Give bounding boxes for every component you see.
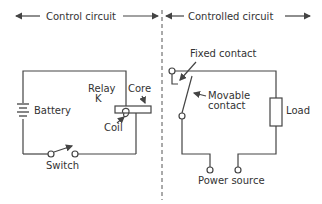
movable-contact-pointer-arrow — [194, 93, 206, 96]
movable-contact-label-2: contact — [208, 100, 246, 111]
battery-label: Battery — [34, 105, 71, 116]
power-source-label: Power source — [198, 175, 265, 186]
switch-icon[interactable] — [48, 146, 78, 157]
core-label: Core — [128, 83, 151, 94]
relay-diagram: Control circuit Controlled circuit Batte… — [0, 0, 322, 204]
power-terminal-right — [235, 167, 241, 173]
diagram-svg: Control circuit Controlled circuit Batte… — [0, 0, 322, 204]
controlled-circuit-label: Controlled circuit — [188, 11, 273, 22]
movable-contact-terminal — [179, 113, 185, 119]
relay-core — [115, 106, 151, 113]
load-label: Load — [286, 105, 310, 116]
relay-k-label: K — [95, 93, 102, 104]
switch-label: Switch — [46, 160, 79, 171]
power-terminal-left — [207, 167, 213, 173]
battery-icon — [17, 104, 29, 116]
fixed-contact-terminal — [169, 68, 175, 74]
load-icon — [270, 98, 282, 126]
movable-contact-arm — [182, 76, 192, 113]
relay-label: Relay — [88, 83, 116, 94]
control-circuit: Battery Relay K Core Coil Switch — [17, 71, 151, 171]
coil-label: Coil — [104, 122, 123, 133]
core-pointer-arrow — [142, 96, 145, 103]
fixed-contact-label: Fixed contact — [190, 48, 257, 59]
controlled-circuit: Fixed contact Movable contact Load Power… — [169, 48, 310, 186]
control-circuit-label: Control circuit — [46, 11, 116, 22]
